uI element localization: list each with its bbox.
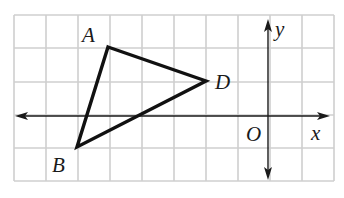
vertex-label-d: D bbox=[214, 70, 230, 94]
origin-label: O bbox=[246, 122, 261, 146]
x-axis-label: x bbox=[310, 121, 321, 145]
y-axis-label: y bbox=[273, 17, 285, 41]
vertex-label-b: B bbox=[52, 153, 65, 177]
coordinate-plane: A D B O x y bbox=[0, 0, 344, 198]
vertex-label-a: A bbox=[80, 23, 95, 47]
x-axis bbox=[15, 112, 330, 120]
